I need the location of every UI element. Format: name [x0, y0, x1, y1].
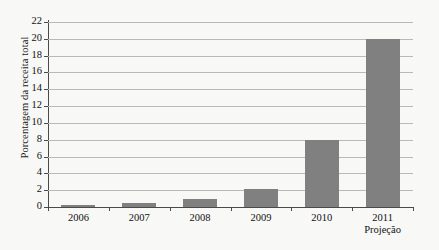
y-tick-mark — [44, 89, 48, 90]
y-tick-label: 8 — [8, 134, 42, 145]
y-tick-label: 6 — [8, 151, 42, 162]
x-tick-mark — [170, 207, 171, 211]
y-tick-mark — [44, 190, 48, 191]
gridline-10 — [48, 123, 413, 124]
y-tick-mark — [44, 157, 48, 158]
x-tick-mark — [291, 207, 292, 211]
gridline-12 — [48, 106, 413, 107]
x-category-year: 2011 — [372, 212, 393, 223]
gridline-20 — [48, 39, 413, 40]
x-category-year: 2009 — [250, 212, 271, 223]
y-tick-label: 18 — [8, 50, 42, 61]
plot-area — [48, 22, 413, 207]
gridline-18 — [48, 56, 413, 57]
bar-2011 — [366, 39, 400, 207]
y-tick-mark — [44, 22, 48, 23]
bar-2010 — [305, 140, 339, 207]
y-tick-mark — [44, 56, 48, 57]
gridline-16 — [48, 72, 413, 73]
x-tick-mark — [413, 207, 414, 211]
bar-chart: Porcentagem da receita total 02468101214… — [0, 0, 439, 250]
y-tick-label: 0 — [8, 201, 42, 212]
y-tick-mark — [44, 72, 48, 73]
gridline-14 — [48, 89, 413, 90]
x-tick-mark — [231, 207, 232, 211]
y-tick-label: 2 — [8, 184, 42, 195]
y-tick-label: 20 — [8, 33, 42, 44]
y-tick-label: 10 — [8, 117, 42, 128]
y-tick-mark — [44, 39, 48, 40]
gridline-8 — [48, 140, 413, 141]
x-category-year: 2008 — [190, 212, 211, 223]
bar-2009 — [244, 189, 278, 208]
y-tick-label: 12 — [8, 100, 42, 111]
y-tick-mark — [44, 123, 48, 124]
x-tick-mark — [48, 207, 49, 211]
y-tick-mark — [44, 106, 48, 107]
gridline-4 — [48, 173, 413, 174]
x-tick-mark — [352, 207, 353, 211]
x-category-year: 2010 — [311, 212, 332, 223]
y-tick-mark — [44, 140, 48, 141]
y-tick-mark — [44, 173, 48, 174]
y-tick-label: 14 — [8, 83, 42, 94]
y-tick-label: 22 — [8, 16, 42, 27]
y-tick-label: 16 — [8, 66, 42, 77]
gridline-2 — [48, 190, 413, 191]
x-category-label: 2011Projeção — [343, 212, 423, 236]
bar-2007 — [122, 203, 156, 207]
x-category-sublabel: Projeção — [343, 224, 423, 236]
bar-2006 — [61, 205, 95, 207]
bar-2008 — [183, 199, 217, 207]
gridline-22 — [48, 22, 413, 23]
gridline-6 — [48, 157, 413, 158]
y-tick-label: 4 — [8, 167, 42, 178]
x-tick-mark — [109, 207, 110, 211]
x-category-year: 2006 — [68, 212, 89, 223]
x-category-year: 2007 — [129, 212, 150, 223]
